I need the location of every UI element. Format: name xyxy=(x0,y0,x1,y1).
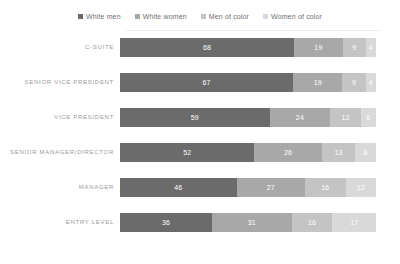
bar-segment[interactable]: 16 xyxy=(305,178,346,197)
bar-segment[interactable]: 4 xyxy=(366,73,376,92)
stacked-bar-chart: White menWhite womenMen of colorWomen of… xyxy=(0,0,400,264)
stacked-bar: 671994 xyxy=(120,73,376,92)
legend-swatch-icon xyxy=(263,14,268,19)
bar-segment[interactable]: 13 xyxy=(322,143,356,162)
bar-segment[interactable]: 31 xyxy=(212,213,291,232)
bar-segment[interactable]: 9 xyxy=(343,38,366,57)
bar-row: SENIOR MANAGER/DIRECTOR5226138 xyxy=(0,135,400,170)
bar-row-label: VICE PRESIDENT xyxy=(0,114,120,121)
bar-segment-value: 52 xyxy=(183,149,191,156)
bar-segment-value: 19 xyxy=(314,44,322,51)
bar-segment-value: 9 xyxy=(352,79,356,86)
bar-segment-value: 19 xyxy=(314,79,322,86)
bar-row-label: SENIOR MANAGER/DIRECTOR xyxy=(0,149,120,156)
bar-segment[interactable]: 26 xyxy=(254,143,321,162)
legend-item[interactable]: White women xyxy=(135,13,187,20)
bar-segment[interactable]: 46 xyxy=(120,178,237,197)
bar-row: SENIOR VICE PRESIDENT671994 xyxy=(0,65,400,100)
bar-segment-value: 36 xyxy=(162,219,170,226)
bar-segment-value: 24 xyxy=(296,114,304,121)
bar-row-label: C-SUITE xyxy=(0,44,120,51)
legend-item-label: White men xyxy=(86,13,121,20)
bar-segment-value: 9 xyxy=(352,44,356,51)
bar-segment-value: 13 xyxy=(334,149,342,156)
stacked-bar: 46271612 xyxy=(120,178,376,197)
bar-segment[interactable]: 27 xyxy=(237,178,305,197)
bar-segment-value: 12 xyxy=(341,114,349,121)
bar-segment[interactable]: 52 xyxy=(120,143,254,162)
legend-item[interactable]: Women of color xyxy=(263,13,322,20)
bar-segment-value: 27 xyxy=(267,184,275,191)
bar-segment-value: 26 xyxy=(284,149,292,156)
bar-segment[interactable]: 8 xyxy=(355,143,376,162)
bar-segment-value: 31 xyxy=(248,219,256,226)
bar-segment-value: 68 xyxy=(203,44,211,51)
bar-segment[interactable]: 6 xyxy=(361,108,376,127)
bar-segment[interactable]: 59 xyxy=(120,108,270,127)
bar-segment[interactable]: 19 xyxy=(294,38,343,57)
stacked-bar: 5226138 xyxy=(120,143,376,162)
bar-segment[interactable]: 16 xyxy=(292,213,333,232)
bar-segment[interactable]: 68 xyxy=(120,38,294,57)
chart-legend: White menWhite womenMen of colorWomen of… xyxy=(0,0,400,24)
bar-segment[interactable]: 12 xyxy=(330,108,360,127)
bar-segment[interactable]: 24 xyxy=(270,108,331,127)
bar-segment-value: 4 xyxy=(369,79,373,86)
bar-segment-value: 16 xyxy=(308,219,316,226)
bar-segment-value: 16 xyxy=(321,184,329,191)
bar-segment-value: 17 xyxy=(350,219,358,226)
bar-row-label: MANAGER xyxy=(0,184,120,191)
bar-row: ENTRY LEVEL36311617 xyxy=(0,205,400,240)
bar-row-label: ENTRY LEVEL xyxy=(0,219,120,226)
legend-item-label: Women of color xyxy=(271,13,322,20)
bar-row: MANAGER46271612 xyxy=(0,170,400,205)
bar-segment[interactable]: 36 xyxy=(120,213,212,232)
bar-row-label: SENIOR VICE PRESIDENT xyxy=(0,79,120,86)
bar-row: VICE PRESIDENT5924126 xyxy=(0,100,400,135)
stacked-bar: 5924126 xyxy=(120,108,376,127)
bar-segment-value: 46 xyxy=(174,184,182,191)
bar-segment-value: 8 xyxy=(364,149,368,156)
legend-item-label: White women xyxy=(143,13,187,20)
legend-swatch-icon xyxy=(135,14,140,19)
bar-segment-value: 6 xyxy=(366,114,370,121)
bar-segment-value: 4 xyxy=(369,44,373,51)
legend-item[interactable]: White men xyxy=(78,13,121,20)
plot-area: C-SUITE681994SENIOR VICE PRESIDENT671994… xyxy=(0,26,400,264)
bar-segment[interactable]: 67 xyxy=(120,73,293,92)
bar-segment-value: 59 xyxy=(191,114,199,121)
bar-segment[interactable]: 4 xyxy=(366,38,376,57)
stacked-bar: 36311617 xyxy=(120,213,376,232)
bar-segment[interactable]: 19 xyxy=(293,73,342,92)
legend-swatch-icon xyxy=(201,14,206,19)
bar-segment[interactable]: 17 xyxy=(332,213,376,232)
bar-segment[interactable]: 9 xyxy=(342,73,365,92)
bar-segment-value: 67 xyxy=(203,79,211,86)
legend-item[interactable]: Men of color xyxy=(201,13,249,20)
bar-segment[interactable]: 12 xyxy=(346,178,376,197)
legend-item-label: Men of color xyxy=(209,13,249,20)
bar-segment-value: 12 xyxy=(357,184,365,191)
bar-row: C-SUITE681994 xyxy=(0,30,400,65)
legend-swatch-icon xyxy=(78,14,83,19)
stacked-bar: 681994 xyxy=(120,38,376,57)
bar-rows: C-SUITE681994SENIOR VICE PRESIDENT671994… xyxy=(0,30,400,240)
